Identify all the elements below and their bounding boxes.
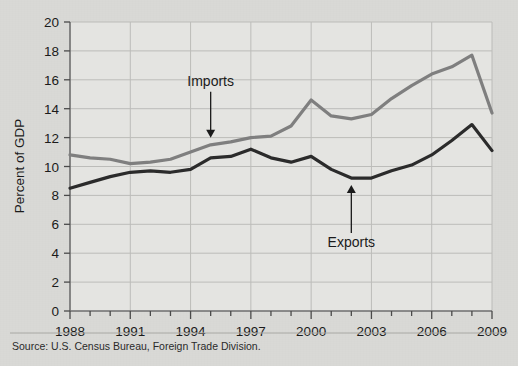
figure-container: 02468101214161820 1988199119941997200020… [0, 0, 518, 366]
y-tick-label: 16 [44, 73, 59, 88]
y-tick-label: 6 [51, 217, 59, 232]
x-tick-label: 1997 [236, 324, 266, 339]
y-tick-label: 2 [51, 275, 59, 290]
source-note: Source: U.S. Census Bureau, Foreign Trad… [12, 340, 261, 352]
y-tick-label: 10 [44, 160, 59, 175]
y-tick-label: 4 [51, 246, 59, 261]
y-tick-label: 0 [51, 304, 59, 319]
x-axis-ticks [70, 311, 492, 319]
y-tick-label: 18 [44, 44, 59, 59]
y-tick-label: 14 [44, 102, 60, 117]
y-axis-tick-labels: 02468101214161820 [44, 15, 60, 319]
x-tick-label: 2003 [356, 324, 386, 339]
x-axis-tick-labels: 19881991199419972000200320062009 [55, 324, 507, 339]
y-axis-ticks [64, 22, 70, 311]
x-tick-label: 1988 [55, 324, 85, 339]
line-chart: 02468101214161820 1988199119941997200020… [0, 0, 518, 366]
x-tick-label: 2006 [417, 324, 447, 339]
x-tick-label: 2000 [296, 324, 326, 339]
series-label-imports: Imports [187, 73, 234, 89]
y-axis-title: Percent of GDP [12, 119, 27, 214]
x-tick-label: 1991 [115, 324, 145, 339]
y-tick-label: 8 [51, 188, 59, 203]
y-tick-label: 20 [44, 15, 59, 30]
x-tick-label: 2009 [477, 324, 507, 339]
y-tick-label: 12 [44, 131, 59, 146]
series-label-exports: Exports [328, 234, 375, 250]
x-tick-label: 1994 [176, 324, 207, 339]
